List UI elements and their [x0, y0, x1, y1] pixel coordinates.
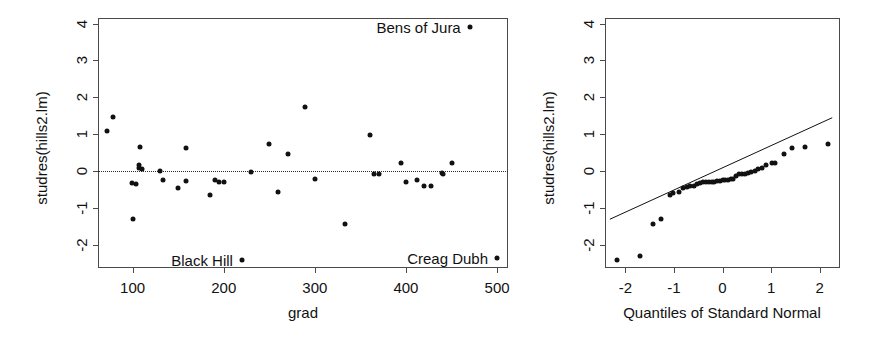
- qq-x-tick: [820, 268, 821, 273]
- residuals-x-tick: [497, 268, 498, 273]
- qq-x-tick: [723, 268, 724, 273]
- qq-y-tick: [600, 245, 605, 246]
- qq-x-tick-label: 2: [815, 280, 823, 295]
- residuals-data-point: [276, 189, 281, 194]
- residuals-y-tick-label: 3: [74, 56, 89, 64]
- residuals-data-point: [267, 141, 272, 146]
- residuals-data-point: [449, 161, 454, 166]
- residuals-plot-frame: [98, 18, 508, 268]
- qq-x-tick-label: -1: [667, 280, 680, 295]
- residuals-data-point: [441, 171, 446, 176]
- residuals-x-tick: [224, 268, 225, 273]
- residuals-y-tick-label: -1: [74, 202, 89, 215]
- residuals-y-tick-label: 0: [74, 167, 89, 175]
- residuals-x-tick: [406, 268, 407, 273]
- left-y-axis-title: studres(hills2.lm): [34, 91, 49, 204]
- residuals-data-point: [285, 151, 290, 156]
- residuals-data-point: [130, 217, 135, 222]
- right-x-axis-title: Quantiles of Standard Normal: [623, 305, 821, 320]
- residuals-y-tick: [93, 97, 98, 98]
- qq-y-tick: [600, 60, 605, 61]
- residuals-data-point: [367, 133, 372, 138]
- qq-y-tick-label: 1: [581, 130, 596, 138]
- residuals-point-label: Black Hill: [171, 253, 233, 268]
- residuals-y-tick: [93, 245, 98, 246]
- qq-data-point: [651, 222, 656, 227]
- residuals-y-tick-label: -2: [74, 238, 89, 251]
- residuals-data-point: [249, 170, 254, 175]
- qq-y-tick-label: 4: [581, 19, 596, 27]
- qq-data-point: [802, 144, 807, 149]
- qq-y-tick: [600, 24, 605, 25]
- residuals-data-point: [428, 184, 433, 189]
- residuals-y-tick-label: 2: [74, 93, 89, 101]
- qq-data-point: [638, 253, 643, 258]
- residuals-data-point: [467, 25, 472, 30]
- residuals-data-point: [157, 168, 162, 173]
- residuals-y-tick: [93, 208, 98, 209]
- residuals-data-point: [495, 256, 500, 261]
- right-y-axis-title: studres(hills2.lm): [541, 91, 556, 204]
- qq-data-point: [764, 162, 769, 167]
- qq-y-tick-label: 2: [581, 93, 596, 101]
- residuals-x-tick: [133, 268, 134, 273]
- qq-x-tick: [674, 268, 675, 273]
- residuals-x-tick-label: 400: [393, 280, 418, 295]
- residuals-y-tick: [93, 60, 98, 61]
- qq-data-point: [789, 145, 794, 150]
- qq-data-point: [676, 189, 681, 194]
- residuals-y-tick-label: 4: [74, 19, 89, 27]
- residuals-data-point: [342, 222, 347, 227]
- qq-x-tick: [771, 268, 772, 273]
- figure-canvas: 100200300400500-2-101234Bens of JuraBlac…: [0, 0, 871, 343]
- left-x-axis-title: grad: [288, 305, 318, 320]
- qq-data-point: [773, 161, 778, 166]
- qq-data-point: [825, 141, 830, 146]
- qq-data-point: [781, 151, 786, 156]
- qq-x-tick-label: 1: [767, 280, 775, 295]
- residuals-data-point: [110, 115, 115, 120]
- qq-y-tick-label: 0: [581, 167, 596, 175]
- qq-y-tick-label: -2: [581, 238, 596, 251]
- residuals-data-point: [376, 171, 381, 176]
- residuals-data-point: [176, 185, 181, 190]
- residuals-data-point: [139, 167, 144, 172]
- residuals-data-point: [403, 180, 408, 185]
- residuals-data-point: [312, 176, 317, 181]
- residuals-x-tick-label: 100: [120, 280, 145, 295]
- residuals-data-point: [302, 104, 307, 109]
- qq-x-tick-label: -2: [619, 280, 632, 295]
- residuals-x-tick-label: 300: [302, 280, 327, 295]
- residuals-y-tick: [93, 134, 98, 135]
- residuals-x-tick-label: 200: [211, 280, 236, 295]
- residuals-data-point: [414, 177, 419, 182]
- residuals-data-point: [239, 258, 244, 263]
- qq-data-point: [671, 191, 676, 196]
- residuals-data-point: [221, 179, 226, 184]
- residuals-data-point: [184, 179, 189, 184]
- residuals-data-point: [208, 193, 213, 198]
- qq-data-point: [659, 217, 664, 222]
- residuals-x-tick-label: 500: [485, 280, 510, 295]
- residuals-y-tick-label: 1: [74, 130, 89, 138]
- residuals-x-tick: [315, 268, 316, 273]
- residuals-data-point: [399, 161, 404, 166]
- qq-y-tick: [600, 171, 605, 172]
- qq-y-tick-label: 3: [581, 56, 596, 64]
- residuals-y-tick: [93, 24, 98, 25]
- qq-x-tick: [625, 268, 626, 273]
- qq-y-tick: [600, 134, 605, 135]
- residuals-point-label: Bens of Jura: [377, 20, 461, 35]
- qq-y-tick-label: -1: [581, 202, 596, 215]
- residuals-data-point: [105, 129, 110, 134]
- qq-y-tick: [600, 208, 605, 209]
- qq-y-tick: [600, 97, 605, 98]
- residuals-data-point: [137, 144, 142, 149]
- qq-x-tick-label: 0: [718, 280, 726, 295]
- qq-plot-frame: [605, 18, 840, 268]
- residuals-data-point: [134, 182, 139, 187]
- residuals-data-point: [160, 178, 165, 183]
- residuals-point-label: Creag Dubh: [407, 251, 488, 266]
- residuals-data-point: [184, 145, 189, 150]
- residuals-data-point: [422, 184, 427, 189]
